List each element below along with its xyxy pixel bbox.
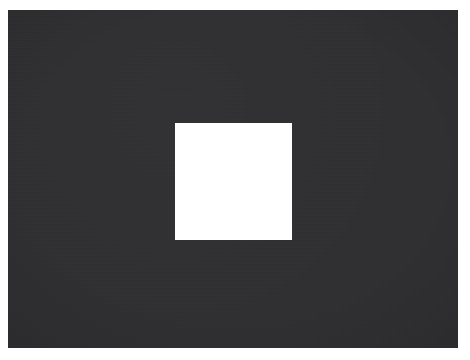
white-square-patch <box>175 123 292 240</box>
stimulus-canvas <box>0 0 470 360</box>
dark-background-field <box>8 10 458 348</box>
